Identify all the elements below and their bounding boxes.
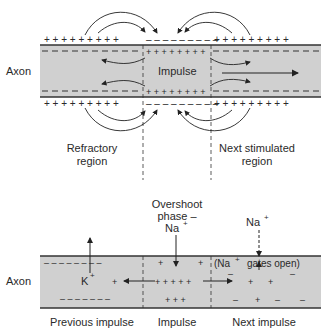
svg-text:+ + + + + + + + +: + + + + + + + + + — [214, 98, 289, 109]
svg-text:region: region — [242, 155, 273, 167]
svg-text:–: – — [275, 295, 280, 305]
nerve-impulse-diagram: + + + + + + + + + – – – – – – – – – + + … — [0, 0, 322, 334]
next-na-ion: Na — [246, 216, 261, 228]
impulse-label: Impulse — [158, 65, 197, 77]
svg-text:+: + — [90, 271, 95, 280]
svg-text:+: + — [158, 258, 163, 268]
svg-text:– – – – – – – – –: – – – – – – – – – — [146, 34, 219, 45]
svg-text:+: + — [183, 219, 188, 228]
gates-open-label: (Na — [214, 258, 231, 269]
svg-text:–: – — [300, 295, 305, 305]
svg-text:+: + — [264, 213, 269, 222]
svg-text:+ + + + + + + + +: + + + + + + + + + — [44, 98, 119, 109]
svg-text:+: + — [268, 277, 273, 287]
svg-text:+: + — [255, 295, 260, 305]
svg-text:–: – — [228, 269, 233, 279]
svg-text:+: + — [112, 277, 117, 287]
svg-text:– – – – – – – –: – – – – – – – – — [44, 258, 102, 268]
bottom-axon-label: Axon — [6, 275, 31, 287]
svg-text:phase –: phase – — [157, 210, 197, 222]
svg-text:+ + + + + + + + +: + + + + + + + + + — [44, 34, 119, 45]
section-next-impulse: Next impulse — [232, 316, 296, 328]
svg-text:– – – – – – –: – – – – – – – — [60, 294, 110, 304]
svg-text:+ + +: + + + — [165, 295, 186, 305]
top-panel: + + + + + + + + + – – – – – – – – – + + … — [6, 12, 321, 180]
svg-text:+: + — [198, 258, 203, 268]
svg-text:–: – — [233, 295, 238, 305]
k-ion: K — [81, 275, 89, 287]
overshoot-na-ion: Na — [165, 222, 180, 234]
refractory-region-label: Refractory — [67, 142, 118, 154]
svg-text:+ + + + + + + +: + + + + + + + + — [146, 87, 206, 97]
section-previous-impulse: Previous impulse — [50, 316, 134, 328]
top-axon-label: Axon — [6, 65, 31, 77]
bottom-panel: Overshoot phase – Na + Na + – – – – – – … — [6, 198, 321, 328]
section-impulse: Impulse — [158, 316, 197, 328]
svg-text:+ + + + +: + + + + + — [155, 277, 191, 287]
svg-text:+ + + + + + + + +: + + + + + + + + + — [214, 34, 289, 45]
svg-text:gates open): gates open) — [247, 258, 300, 269]
svg-text:–: – — [290, 269, 295, 279]
svg-text:+ + + + + + + +: + + + + + + + + — [146, 47, 206, 57]
svg-text:+: + — [235, 255, 240, 264]
svg-text:region: region — [77, 155, 108, 167]
overshoot-label: Overshoot — [152, 198, 203, 210]
svg-text:– – – – – – – – –: – – – – – – – – – — [146, 98, 219, 109]
next-stimulated-region-label: Next stimulated — [219, 142, 295, 154]
svg-text:+: + — [248, 277, 253, 287]
